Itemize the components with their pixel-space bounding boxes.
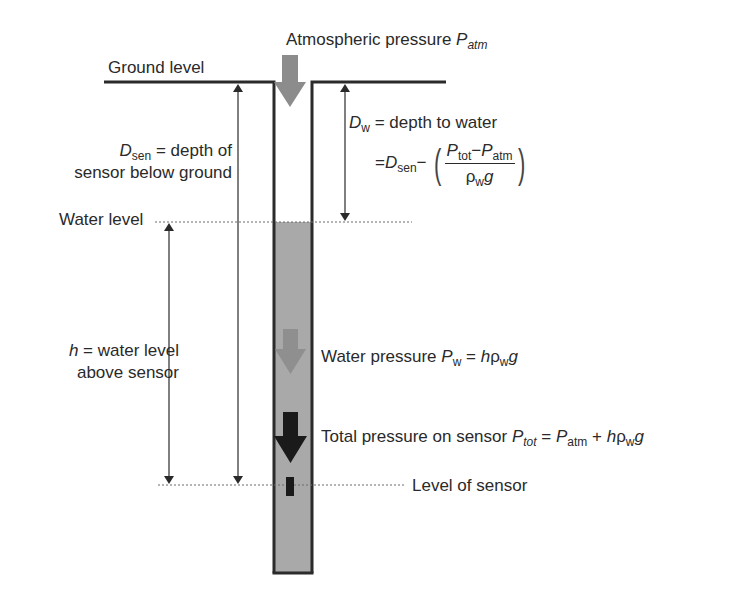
- atm-subscript: atm: [467, 38, 487, 52]
- right-paren: ): [518, 144, 525, 184]
- pressure-fraction: Ptot−Patm ρwg: [445, 140, 515, 188]
- w-subscript: w: [453, 355, 462, 369]
- water-column: [274, 222, 312, 572]
- d-sen-label: Dsen = depth of sensor below ground: [74, 140, 232, 184]
- plus-sign: +: [587, 427, 606, 446]
- h-text: = water level: [78, 341, 179, 360]
- equals-sign: =: [375, 153, 385, 172]
- rho-symbol: ρ: [616, 427, 626, 446]
- fraction-denominator: ρwg: [445, 164, 515, 188]
- rho-symbol: ρ: [466, 167, 476, 186]
- atm-subscript: atm: [493, 149, 513, 163]
- h-symbol: h: [69, 341, 78, 360]
- sensor-icon: [286, 477, 294, 496]
- p-symbol: P: [456, 30, 467, 49]
- h-label: h = water level above sensor: [69, 340, 179, 384]
- total-pressure-text: Total pressure on sensor: [321, 427, 512, 446]
- sen-subscript: sen: [132, 149, 151, 163]
- atmospheric-pressure-label: Atmospheric pressure Patm: [286, 30, 487, 50]
- ground-level-label: Ground level: [108, 58, 204, 78]
- g-symbol: g: [635, 427, 644, 446]
- d-w-equation: =Dsen− ( Ptot−Patm ρwg ): [375, 140, 528, 188]
- water-level-label: Water level: [59, 210, 143, 230]
- g-symbol: g: [484, 167, 493, 186]
- d-w-text: = depth to water: [370, 113, 497, 132]
- d-w-label: Dw = depth to water: [349, 113, 497, 133]
- p-symbol: P: [512, 427, 523, 446]
- equals-sign: =: [537, 427, 556, 446]
- d-symbol: D: [385, 153, 397, 172]
- p-atm-symbol: P: [481, 141, 492, 160]
- level-of-sensor-label: Level of sensor: [412, 476, 527, 496]
- well-diagram: [0, 0, 743, 602]
- p-symbol: P: [441, 347, 452, 366]
- w-subscript: w: [475, 175, 484, 189]
- rho-symbol: ρ: [490, 347, 500, 366]
- d-symbol: D: [349, 113, 361, 132]
- d-sen-line2: sensor below ground: [74, 162, 232, 184]
- sen-subscript: sen: [397, 161, 416, 175]
- minus-sign: −: [417, 153, 427, 172]
- h-line2: above sensor: [69, 362, 179, 384]
- tot-subscript: tot: [523, 435, 536, 449]
- g-symbol: g: [509, 347, 518, 366]
- w-subscript: w: [500, 355, 509, 369]
- equals-sign: =: [461, 347, 480, 366]
- d-sen-line1: Dsen = depth of: [74, 140, 232, 162]
- w-subscript: w: [361, 121, 370, 135]
- h-symbol: h: [607, 427, 616, 446]
- water-pressure-label: Water pressure Pw = hρwg: [321, 347, 518, 367]
- tot-subscript: tot: [458, 149, 471, 163]
- atmospheric-text: Atmospheric pressure: [286, 30, 456, 49]
- atm-subscript: atm: [567, 435, 587, 449]
- d-symbol: D: [120, 141, 132, 160]
- atmospheric-arrow-icon: [274, 55, 306, 107]
- h-symbol: h: [481, 347, 490, 366]
- d-sen-text: = depth of: [151, 141, 232, 160]
- minus-sign: −: [471, 141, 481, 160]
- p-tot-symbol: P: [447, 141, 458, 160]
- left-paren: (: [434, 144, 441, 184]
- p-atm-symbol: P: [556, 427, 567, 446]
- w-subscript: w: [626, 435, 635, 449]
- h-line1: h = water level: [69, 340, 179, 362]
- water-pressure-text: Water pressure: [321, 347, 441, 366]
- total-pressure-label: Total pressure on sensor Ptot = Patm + h…: [321, 427, 644, 447]
- fraction-numerator: Ptot−Patm: [445, 140, 515, 164]
